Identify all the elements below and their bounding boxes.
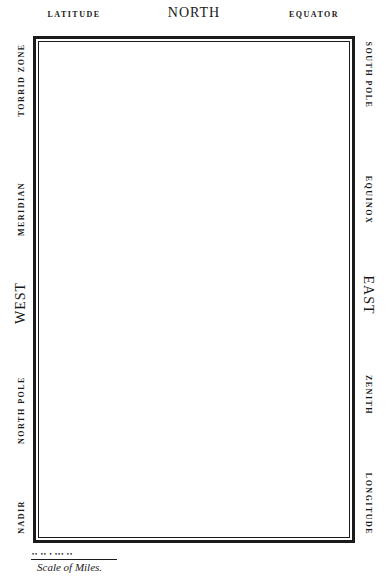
scale-bar-ticks: •• •• • ••• •• [32,551,73,557]
label-equator: EQUATOR [289,10,339,19]
scale-bar-line [31,559,117,560]
label-equinox: EQUINOX [364,176,373,225]
map-frame [33,36,355,543]
label-north: NORTH [168,5,220,21]
map-frame-inner-border [38,41,350,538]
label-west: WEST [13,282,29,324]
label-east: EAST [360,276,376,315]
label-zenith: ZENITH [364,375,373,415]
label-north-pole: NORTH POLE [17,376,26,444]
label-meridian: MERIDIAN [17,182,26,236]
label-longitude: LONGITUDE [364,473,373,535]
label-nadir: NADIR [17,500,26,534]
label-torrid-zone: TORRID ZONE [17,43,26,116]
label-south-pole: SOUTH POLE [364,42,373,109]
scale-caption: Scale of Miles. [37,561,102,573]
label-latitude: LATITUDE [47,10,100,19]
